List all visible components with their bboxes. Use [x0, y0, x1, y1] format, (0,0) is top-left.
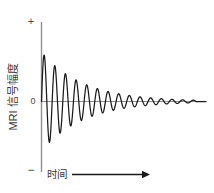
y-axis-minus-marker: − — [27, 163, 34, 177]
y-axis-label: MRI 信号幅度 — [6, 63, 19, 130]
fid-signal-figure: + − 0 MRI 信号幅度 时间 — [0, 0, 214, 193]
y-axis-plus-marker: + — [28, 15, 34, 27]
fid-chart-svg: + − 0 MRI 信号幅度 时间 — [0, 0, 214, 193]
x-axis-label: 时间 — [47, 168, 67, 180]
y-axis-origin-label: 0 — [30, 96, 35, 106]
